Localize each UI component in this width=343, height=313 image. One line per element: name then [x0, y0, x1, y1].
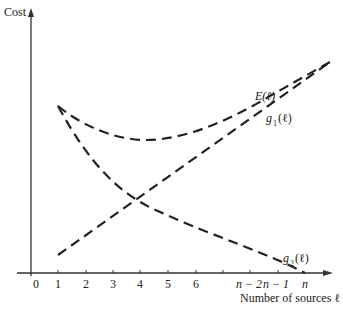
tick-label: 1	[55, 277, 61, 291]
y-axis-arrow-icon	[28, 8, 34, 17]
tick-label: 0	[33, 277, 39, 291]
x-tick-labels: 0 1 2 3 4 5 6 n − 2 n − 1 n	[33, 277, 308, 291]
tick-label: 5	[165, 277, 171, 291]
curve-E	[58, 62, 330, 140]
tick-label: 4	[137, 277, 143, 291]
svg-text:2: 2	[290, 259, 294, 268]
label-g1: g 1 (ℓ)	[266, 111, 292, 128]
curve-g2	[58, 106, 305, 273]
svg-text:(ℓ): (ℓ)	[295, 251, 309, 265]
curve-g1	[58, 62, 330, 255]
svg-text:g: g	[283, 251, 289, 265]
tick-label: 3	[110, 277, 116, 291]
y-axis-label: Cost	[4, 5, 27, 19]
tick-label: n	[302, 277, 308, 291]
label-g2: g 2 (ℓ)	[283, 251, 309, 268]
tick-label: 2	[83, 277, 89, 291]
cost-chart: Cost Number of sources ℓ 0 1 2 3 4 5 6 n…	[0, 0, 343, 313]
tick-label: n − 2	[236, 277, 262, 291]
x-axis-arrow-icon	[323, 270, 333, 276]
svg-text:g: g	[266, 111, 272, 125]
svg-text:(ℓ): (ℓ)	[278, 111, 292, 125]
x-axis-label: Number of sources ℓ	[240, 291, 340, 305]
label-E: E(ℓ)	[254, 89, 275, 103]
tick-label: 6	[193, 277, 199, 291]
svg-text:1: 1	[273, 119, 277, 128]
tick-label: n − 1	[263, 277, 289, 291]
